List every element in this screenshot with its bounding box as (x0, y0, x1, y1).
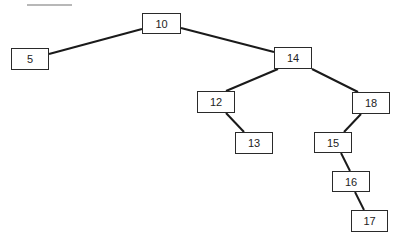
edge-16-17 (355, 192, 364, 210)
edge-18-15 (344, 114, 361, 132)
node-16: 16 (332, 171, 370, 192)
node-label: 12 (210, 96, 222, 108)
edge-14-18 (312, 69, 358, 92)
node-label: 14 (287, 52, 299, 64)
node-label: 17 (363, 215, 375, 227)
edge-10-5 (49, 29, 142, 54)
node-label: 18 (365, 97, 377, 109)
node-17: 17 (351, 210, 388, 232)
node-15: 15 (314, 132, 352, 153)
node-12: 12 (197, 91, 235, 113)
node-10: 10 (142, 13, 181, 34)
node-label: 10 (155, 18, 167, 30)
node-14: 14 (274, 47, 312, 69)
node-5: 5 (11, 48, 49, 70)
edge-10-14 (181, 28, 274, 52)
edge-14-12 (226, 69, 278, 91)
tree-diagram: 10 5 14 12 18 13 15 16 17 (0, 0, 403, 244)
node-13: 13 (235, 132, 273, 154)
edge-12-13 (226, 113, 244, 132)
node-18: 18 (352, 92, 390, 114)
node-label: 16 (345, 176, 357, 188)
edge-15-16 (341, 153, 350, 171)
node-label: 5 (27, 53, 33, 65)
node-label: 15 (327, 137, 339, 149)
node-label: 13 (248, 137, 260, 149)
tree-edges (0, 0, 403, 244)
header-rule (27, 4, 72, 6)
